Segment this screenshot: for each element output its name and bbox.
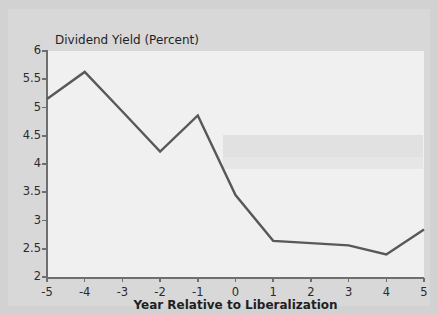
y-tick-label: 3 bbox=[34, 215, 41, 226]
chart-figure: Dividend Yield (Percent) Year Relative t… bbox=[0, 0, 438, 315]
x-tick-label: -1 bbox=[192, 285, 203, 299]
y-tick-mark bbox=[42, 220, 46, 222]
x-tick-label: 4 bbox=[383, 285, 390, 299]
y-tick-label: 3.5 bbox=[23, 186, 41, 197]
y-tick-label: 5 bbox=[34, 102, 41, 113]
x-tick-label: 1 bbox=[270, 285, 277, 299]
watermark-band-secondary bbox=[223, 157, 423, 169]
y-tick-label: 4 bbox=[34, 158, 41, 169]
y-tick-mark bbox=[42, 191, 46, 193]
y-tick-mark bbox=[42, 107, 46, 109]
x-tick-label: -3 bbox=[117, 285, 128, 299]
y-tick-label: 5.5 bbox=[23, 73, 41, 84]
y-axis-line bbox=[46, 50, 48, 278]
y-tick-label: 4.5 bbox=[23, 130, 41, 141]
figure-panel: Dividend Yield (Percent) Year Relative t… bbox=[8, 9, 430, 306]
x-tick-label: 2 bbox=[307, 285, 314, 299]
x-tick-label: 3 bbox=[345, 285, 352, 299]
y-tick-mark bbox=[42, 50, 46, 52]
y-tick-mark bbox=[42, 163, 46, 165]
y-tick-mark bbox=[42, 248, 46, 250]
y-tick-label: 6 bbox=[34, 45, 41, 56]
y-tick-label: 2.5 bbox=[23, 243, 41, 254]
y-tick-mark bbox=[42, 78, 46, 80]
x-tick-label: -2 bbox=[154, 285, 165, 299]
watermark-band bbox=[223, 135, 423, 157]
y-axis-title: Dividend Yield (Percent) bbox=[55, 33, 199, 47]
x-tick-label: -5 bbox=[41, 285, 52, 299]
x-tick-label: 0 bbox=[232, 285, 239, 299]
x-tick-label: 5 bbox=[420, 285, 427, 299]
y-tick-mark bbox=[42, 135, 46, 137]
x-tick-label: -4 bbox=[79, 285, 90, 299]
x-axis-title: Year Relative to Liberalization bbox=[47, 298, 424, 312]
plot-area bbox=[47, 51, 424, 278]
